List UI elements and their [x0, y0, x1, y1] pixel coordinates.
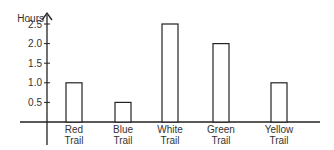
x-tick-label: Trail: [64, 135, 83, 146]
bar: [66, 83, 82, 122]
x-tick-label: Trail: [269, 135, 288, 146]
y-tick-label: 2.5: [28, 19, 42, 30]
x-tick-label: Blue: [113, 124, 133, 135]
x-tick-label: Red: [65, 124, 83, 135]
x-tick-label: White: [157, 124, 183, 135]
x-tick-label: Yellow: [265, 124, 294, 135]
y-tick-label: 0.5: [28, 97, 42, 108]
y-tick-label: 1.5: [28, 58, 42, 69]
x-tick-label: Trail: [160, 135, 179, 146]
y-tick-label: 2.0: [28, 38, 42, 49]
x-tick-labels: RedTrailBlueTrailWhiteTrailGreenTrailYel…: [64, 124, 294, 146]
x-tick-label: Trail: [113, 135, 132, 146]
y-tick-label: 1.0: [28, 77, 42, 88]
x-tick-label: Trail: [211, 135, 230, 146]
x-tick-label: Green: [207, 124, 235, 135]
bar: [162, 24, 178, 122]
bar: [115, 102, 131, 122]
bar-chart: Hours 0.51.01.52.02.5 RedTrailBlueTrailW…: [0, 0, 334, 150]
bars: [66, 24, 287, 122]
bar: [213, 44, 229, 122]
bar: [271, 83, 287, 122]
